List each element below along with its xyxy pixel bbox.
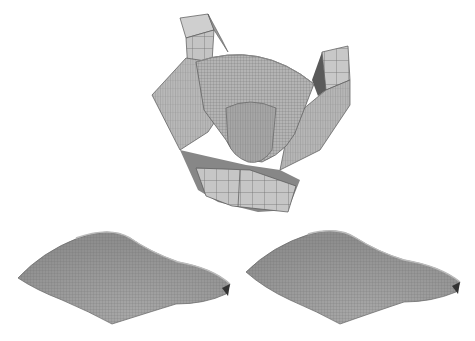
figure-canvas bbox=[0, 0, 475, 341]
die-assembly bbox=[152, 14, 350, 212]
sheet-right bbox=[246, 231, 460, 324]
sheet-left bbox=[18, 232, 230, 324]
